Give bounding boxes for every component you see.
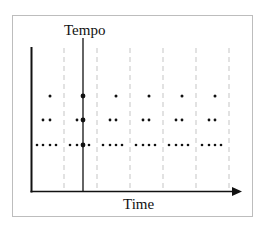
tempo-label: Tempo <box>64 23 105 38</box>
x-axis-label: Time <box>123 197 154 212</box>
beat-grid-lines <box>64 48 229 191</box>
tempo-diagram <box>0 0 264 226</box>
level-2-dots <box>42 118 217 123</box>
level-1-dots <box>49 94 217 99</box>
level-3-dots <box>36 143 223 148</box>
x-axis-arrowhead-icon <box>232 187 242 196</box>
